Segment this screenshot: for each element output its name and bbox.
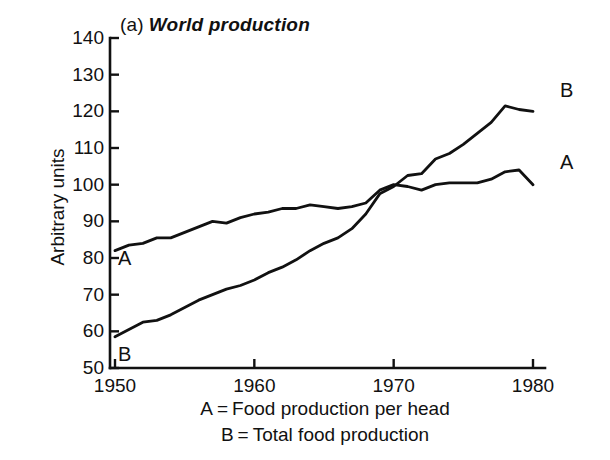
y-tick-label: 60 — [46, 321, 104, 340]
series-b-start-tag: B — [118, 344, 131, 364]
y-tick-label: 100 — [46, 175, 104, 194]
page-title: World production — [149, 14, 310, 35]
legend-text-b: Total food production — [253, 424, 429, 445]
y-tick-label: 140 — [46, 28, 104, 47]
y-tick-label: 90 — [46, 211, 104, 230]
legend-equals-b: = — [238, 424, 249, 445]
legend: A=Food production per head B=Total food … — [0, 396, 610, 448]
legend-key-b: B — [221, 424, 234, 445]
x-tick-label: 1960 — [209, 376, 299, 395]
series-b-end-tag: B — [560, 80, 573, 100]
series-line-a — [115, 170, 533, 251]
data-curves — [115, 106, 533, 337]
y-tick-label: 120 — [46, 101, 104, 120]
panel-tag: (a) — [120, 14, 144, 35]
chart-figure: (a)World production Arbitrary units 5060… — [0, 0, 610, 460]
y-tick-label: 130 — [46, 65, 104, 84]
legend-row-a: A=Food production per head — [0, 396, 610, 422]
series-a-end-tag: A — [560, 152, 573, 172]
x-tick-label: 1970 — [349, 376, 439, 395]
y-tick-label: 110 — [46, 138, 104, 157]
y-axis-ticks — [110, 38, 119, 368]
legend-equals-a: = — [217, 398, 228, 419]
chart-title: (a)World production — [120, 14, 310, 36]
y-tick-label: 80 — [46, 248, 104, 267]
axes — [110, 38, 545, 368]
legend-row-b: B=Total food production — [0, 422, 610, 448]
series-a-start-tag: A — [118, 248, 131, 268]
x-tick-label: 1980 — [488, 376, 578, 395]
y-tick-label: 70 — [46, 285, 104, 304]
x-tick-label: 1950 — [70, 376, 160, 395]
x-axis-ticks — [115, 359, 533, 368]
series-line-b — [115, 106, 533, 337]
legend-text-a: Food production per head — [232, 398, 450, 419]
legend-key-a: A — [200, 398, 213, 419]
